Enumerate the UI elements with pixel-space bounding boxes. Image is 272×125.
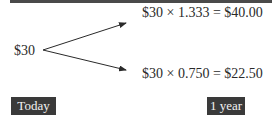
today-label: Today: [11, 97, 56, 115]
up-outcome-formula: $30 × 1.333 = $40.00: [142, 5, 263, 21]
up-arrow-icon: [43, 23, 126, 50]
one-year-label: 1 year: [207, 97, 245, 115]
down-outcome-formula: $30 × 0.750 = $22.50: [142, 66, 263, 82]
down-arrow-icon: [43, 50, 126, 70]
